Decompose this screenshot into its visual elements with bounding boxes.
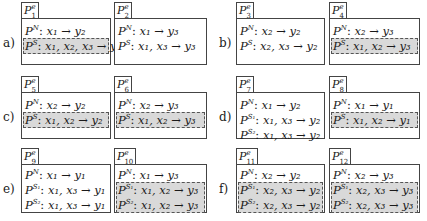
- policy-panel: Pe9PN: x₁ → y₁PS₁: x₁, x₃ → y₁PS₂: x₁, x…: [21, 148, 111, 213]
- rule-line: PN: x₂ → y₂: [240, 24, 301, 38]
- rule-lhs: x₂: [46, 98, 57, 112]
- arrow-icon: →: [61, 168, 71, 182]
- rule-separator: :: [40, 183, 44, 197]
- rule-line: PS₂: x₁, x₂ → y₃: [118, 198, 198, 212]
- rule-box: PN: x₂ → y₃PS: x₁, x₂ → y₃: [329, 18, 420, 65]
- rule-lhs: x₁, x₂, x₃: [45, 39, 93, 53]
- rule-rhs: y₃: [167, 24, 178, 38]
- arrow-icon: →: [154, 24, 164, 38]
- panel-tab: Pe1: [21, 2, 39, 18]
- rule-lhs: x₁, x₃: [263, 128, 293, 142]
- rule-base: P: [118, 24, 126, 38]
- panel-tab: Pe5: [21, 76, 39, 92]
- rule-base: P: [240, 113, 248, 127]
- rule-base: P: [118, 113, 126, 127]
- rule-rhs: y₁: [74, 168, 85, 182]
- rule-base: P: [333, 39, 341, 53]
- rule-separator: :: [347, 24, 351, 38]
- rule-box: PN: x₁ → y₂PS: x₁, x₂, x₃ → y₂: [21, 18, 111, 65]
- arrow-icon: →: [81, 183, 91, 197]
- rule-rhs: y₃: [400, 39, 411, 53]
- rule-separator: :: [254, 168, 258, 182]
- rule-separator: :: [132, 98, 136, 112]
- rule-separator: :: [40, 198, 44, 212]
- arrow-icon: →: [174, 183, 184, 197]
- rule-lhs: x₁: [139, 24, 150, 38]
- panel-tab: Pe8: [329, 76, 347, 92]
- rule-line: PN: x₁ → y₁: [333, 98, 394, 112]
- policy-panel: Pe6PN: x₂ → y₃PS: x₁, x₂ → y₃: [114, 76, 207, 139]
- rule-base: P: [333, 98, 341, 112]
- rule-line: PS₁: x₂, x₃ → y₂: [240, 183, 320, 197]
- rule-line: PS: x₁, x₃ → y₃: [118, 39, 196, 53]
- rule-separator: :: [132, 168, 136, 182]
- panel-tab: Pe10: [114, 148, 136, 164]
- rule-base: P: [25, 39, 33, 53]
- rule-line: PS₁: x₁, x₂ → y₃: [118, 183, 198, 197]
- rule-box: PN: x₂ → y₃PS₁: x₂, x₃ → y₃PS₂: x₂, x₃ →…: [329, 164, 420, 213]
- tab-base: P: [24, 4, 31, 17]
- rule-lhs: x₂, x₃: [263, 183, 293, 197]
- policy-panel: Pe3PN: x₂ → y₂PS: x₂, x₃ → y₂: [236, 2, 325, 65]
- rule-base: P: [333, 168, 341, 182]
- tab-base: P: [117, 78, 124, 91]
- rule-lhs: x₂, x₃: [356, 198, 386, 212]
- rule-rhs: y₃: [167, 98, 178, 112]
- arrow-icon: →: [81, 198, 91, 212]
- row-label: a): [3, 36, 15, 50]
- arrow-icon: →: [293, 39, 303, 53]
- rule-separator: :: [253, 39, 257, 53]
- arrow-icon: →: [296, 113, 306, 127]
- arrow-icon: →: [296, 183, 306, 197]
- rule-box: PN: x₁ → y₂PS₁: x₁, x₃ → y₂PS₂: x₁, x₃ →…: [236, 92, 325, 139]
- rule-separator: :: [131, 39, 135, 53]
- row-label: e): [3, 182, 15, 196]
- rule-line: PS: x₁, x₂, x₃ → y₂: [25, 39, 121, 53]
- rule-lhs: x₁, x₃: [48, 198, 78, 212]
- tab-base: P: [24, 78, 31, 91]
- arrow-icon: →: [61, 98, 71, 112]
- rule-base: P: [118, 198, 126, 212]
- arrow-icon: →: [296, 198, 306, 212]
- arrow-icon: →: [276, 98, 286, 112]
- rule-rhs: y₃: [402, 198, 413, 212]
- panel-tab: Pe4: [329, 2, 347, 18]
- rule-base: P: [240, 24, 248, 38]
- policy-panel: Pe1PN: x₁ → y₂PS: x₁, x₂, x₃ → y₂: [21, 2, 111, 65]
- rule-line: PN: x₁ → y₂: [25, 24, 86, 38]
- rule-base: P: [240, 183, 248, 197]
- policy-panel: Pe10PN: x₁ → y₃PS₁: x₁, x₂ → y₃PS₂: x₁, …: [114, 148, 207, 213]
- rule-rhs: y₂: [74, 24, 85, 38]
- policy-panel: Pe2PN: x₁ → y₃PS: x₁, x₃ → y₃: [114, 2, 207, 65]
- rule-rhs: y₁: [400, 113, 411, 127]
- rule-lhs: x₁: [46, 168, 57, 182]
- rule-rhs: y₃: [187, 183, 198, 197]
- rule-base: P: [333, 113, 341, 127]
- row-label: d): [219, 110, 231, 124]
- tab-base: P: [117, 150, 124, 163]
- rule-separator: :: [131, 113, 135, 127]
- rule-lhs: x₂: [261, 24, 272, 38]
- rule-lhs: x₁, x₂: [353, 113, 383, 127]
- arrow-icon: →: [97, 39, 107, 53]
- rule-rhs: y₁: [94, 183, 105, 197]
- rule-line: PS: x₁, x₂ → y₁: [333, 113, 411, 127]
- panel-tab: Pe2: [114, 2, 132, 18]
- tab-base: P: [332, 150, 339, 163]
- rule-separator: :: [255, 198, 259, 212]
- rule-line: PS: x₁, x₂ → y₃: [333, 39, 411, 53]
- rule-line: PN: x₁ → y₃: [118, 24, 179, 38]
- rule-separator: :: [347, 98, 351, 112]
- rule-separator: :: [255, 128, 259, 142]
- rule-box: PN: x₂ → y₂PS₁: x₂, x₃ → y₂PS₂: x₂, x₃ →…: [236, 164, 325, 213]
- rule-line: PS₁: x₂, x₃ → y₃: [333, 183, 413, 197]
- rule-rhs: y₂: [309, 128, 320, 142]
- rule-base: P: [118, 39, 126, 53]
- rule-base: P: [240, 39, 248, 53]
- rule-rhs: y₂: [309, 113, 320, 127]
- rule-base: P: [25, 113, 33, 127]
- rule-base: P: [333, 183, 341, 197]
- rule-separator: :: [348, 198, 352, 212]
- rule-lhs: x₁: [139, 168, 150, 182]
- panel-tab: Pe7: [236, 76, 254, 92]
